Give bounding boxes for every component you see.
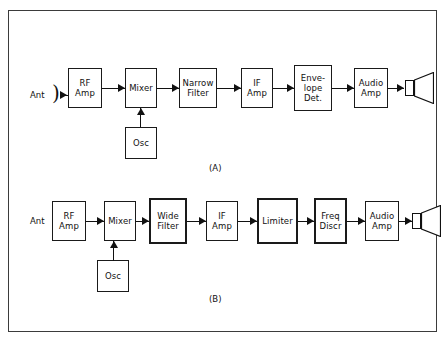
caption-b: (B) bbox=[209, 294, 221, 304]
arrowhead-speaker-b bbox=[405, 217, 412, 225]
block-mixer-a[interactable]: Mixer bbox=[125, 68, 157, 108]
block-osc-b[interactable]: Osc bbox=[97, 260, 129, 292]
antenna-label-b: Ant bbox=[30, 216, 45, 226]
arrowhead-audioamp-a bbox=[347, 84, 354, 92]
block-freq-discriminator-b[interactable]: Freq Discr bbox=[314, 198, 347, 244]
arrowhead-limiter-b bbox=[250, 217, 257, 225]
speaker-body-b bbox=[412, 213, 421, 229]
loudspeaker-icon-b bbox=[412, 205, 441, 237]
arrowhead-mixer-osc-a bbox=[137, 108, 145, 115]
arrowhead-mixer-b bbox=[97, 217, 104, 225]
arrowhead-narrowfilter-a bbox=[172, 84, 179, 92]
block-rf-amp-b[interactable]: RF Amp bbox=[52, 201, 86, 241]
block-limiter-b[interactable]: Limiter bbox=[257, 198, 298, 244]
block-wide-filter-b[interactable]: Wide Filter bbox=[149, 198, 187, 244]
block-narrow-filter-a[interactable]: Narrow Filter bbox=[179, 68, 217, 108]
arrowhead-mixer-a bbox=[118, 84, 125, 92]
block-mixer-b[interactable]: Mixer bbox=[104, 201, 136, 241]
block-audio-amp-a[interactable]: Audio Amp bbox=[354, 68, 388, 108]
arrowhead-audioamp-b bbox=[358, 217, 365, 225]
arrowhead-rfamp-a bbox=[60, 91, 67, 99]
arrowhead-envdet-a bbox=[287, 84, 294, 92]
block-envelope-detector-a[interactable]: Enve- lope Det. bbox=[294, 65, 332, 111]
arrowhead-ifamp-b bbox=[199, 217, 206, 225]
block-audio-amp-b[interactable]: Audio Amp bbox=[365, 201, 399, 241]
speaker-horn-a bbox=[414, 72, 434, 104]
figure-canvas: Ant ) RF Amp Mixer Osc Narrow Filter IF … bbox=[0, 0, 447, 342]
arrowhead-ifamp-a bbox=[234, 84, 241, 92]
loudspeaker-icon-a bbox=[405, 72, 434, 104]
arrowhead-speaker-a bbox=[397, 84, 404, 92]
arrowhead-freqdiscr-b bbox=[307, 217, 314, 225]
speaker-horn-b bbox=[421, 205, 441, 237]
block-rf-amp-a[interactable]: RF Amp bbox=[68, 68, 102, 108]
arrowhead-mixer-osc-b bbox=[110, 241, 118, 248]
block-if-amp-b[interactable]: IF Amp bbox=[206, 201, 238, 241]
block-if-amp-a[interactable]: IF Amp bbox=[241, 68, 273, 108]
figure-frame: Ant ) RF Amp Mixer Osc Narrow Filter IF … bbox=[8, 10, 437, 332]
block-osc-a[interactable]: Osc bbox=[125, 127, 157, 159]
speaker-body-a bbox=[405, 80, 414, 96]
antenna-icon-a: ) bbox=[52, 83, 60, 103]
arrowhead-widefilter-b bbox=[142, 217, 149, 225]
caption-a: (A) bbox=[209, 163, 221, 173]
antenna-label-a: Ant bbox=[30, 90, 45, 100]
